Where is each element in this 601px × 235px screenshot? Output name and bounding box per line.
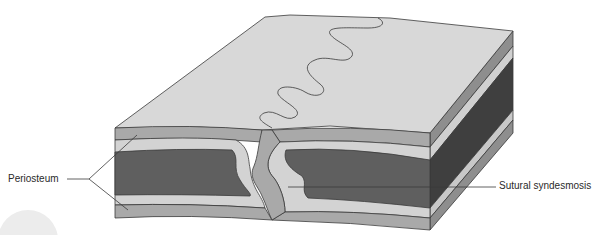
- left-bone-cross-section: [115, 126, 272, 220]
- sutural-syndesmosis-label: Sutural syndesmosis: [499, 180, 591, 191]
- periosteum-label: Periosteum: [8, 173, 59, 184]
- right-bone-cross-section: [268, 128, 430, 230]
- suture-diagram: [0, 0, 601, 235]
- corner-decoration: [0, 210, 58, 235]
